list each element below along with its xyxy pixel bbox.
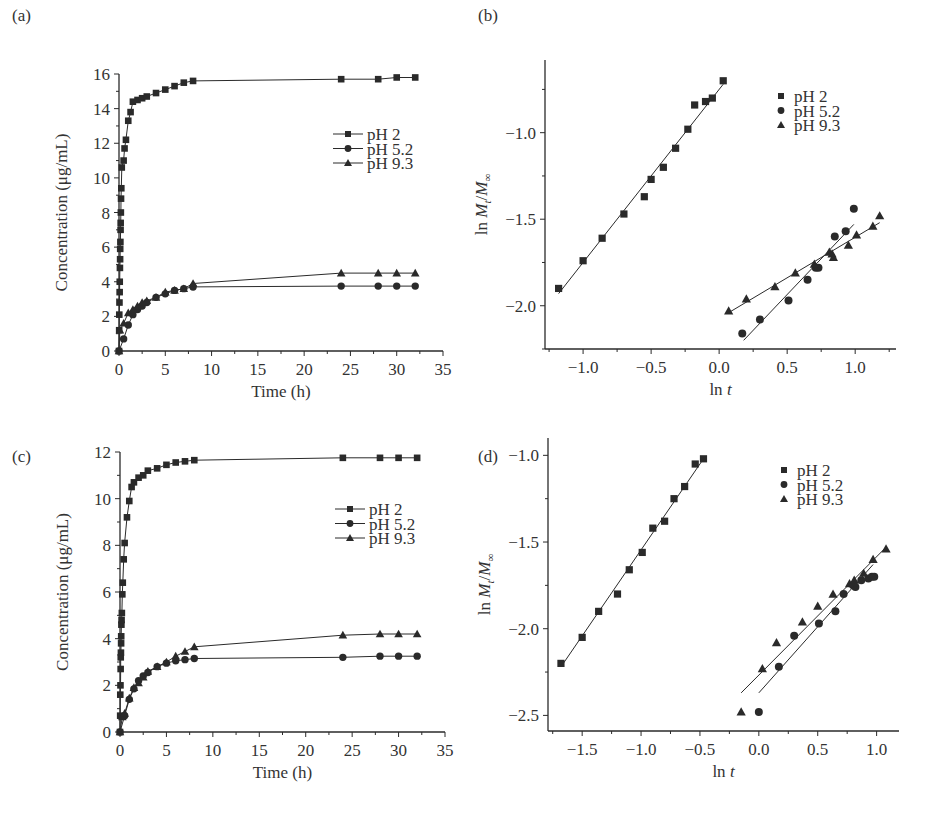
figure: 051015202530350246810121416Time (h)Conce… [0,0,941,834]
series-ph-5-2 [116,652,421,735]
square-marker [660,164,667,171]
legend-item: pH 9.3 [777,116,840,135]
triangle-marker [798,617,807,625]
square-marker [117,666,124,673]
y-tick-label: 10 [93,169,110,188]
square-marker [121,145,128,152]
y-tick-label: −1.5 [505,210,536,229]
legend: pH 2pH 5.2pH 9.3 [777,87,840,135]
circle-marker [850,205,858,213]
square-marker [414,455,421,462]
circle-marker [339,654,346,661]
x-tick-label: 20 [297,741,314,760]
x-tick-label: 15 [249,360,266,379]
square-marker [393,74,400,81]
y-tick-label: 8 [102,204,111,223]
square-marker [720,77,727,84]
circle-marker [781,481,788,488]
y-tick-label: 0 [103,723,112,742]
x-tick-label: 35 [437,741,454,760]
figure-canvas: 051015202530350246810121416Time (h)Conce… [0,0,941,834]
square-marker [412,74,419,81]
square-marker [171,83,178,90]
y-tick-label: 10 [94,490,111,509]
x-tick-label: −1.0 [568,358,599,377]
circle-marker [375,282,382,289]
square-marker [117,256,124,263]
square-marker [684,126,691,133]
series-line [119,273,415,351]
circle-marker [738,329,746,337]
series-ph-9-3 [116,630,422,736]
square-marker [117,691,124,698]
square-marker [579,634,586,641]
circle-marker [347,520,354,527]
y-tick-label: 12 [93,134,110,153]
x-tick-label: 5 [162,741,171,760]
x-axis-title: Time (h) [251,382,310,401]
square-marker [117,227,124,234]
square-marker [116,299,123,306]
square-marker [118,164,125,171]
circle-marker [790,632,798,640]
square-marker [123,136,130,143]
square-marker [117,239,124,246]
series-line [120,656,417,732]
square-marker [116,278,123,285]
x-tick-label: 0 [115,360,124,379]
x-tick-label: −0.5 [685,740,716,759]
panel-label: (d) [478,447,498,466]
x-tick-label: 35 [435,360,452,379]
triangle-marker [881,544,890,552]
panel-label: (c) [12,447,31,466]
x-axis-title: ln t [712,762,735,781]
square-marker [162,86,169,93]
y-tick-label: 6 [102,238,111,257]
square-marker [145,467,152,474]
x-tick-label: 0 [116,741,125,760]
x-tick-label: 10 [204,741,221,760]
legend-item: pH 9.3 [335,529,415,548]
square-marker [118,649,125,656]
square-marker [118,185,125,192]
circle-marker [755,708,763,716]
series-ph-5-2 [755,565,878,716]
x-tick-label: −1.0 [626,740,657,759]
y-tick-label: 16 [93,65,110,84]
x-tick-label: 5 [161,360,170,379]
circle-marker [191,655,198,662]
square-marker [614,590,621,597]
series-ph-9-3 [737,544,891,715]
triangle-marker [780,495,788,502]
triangle-marker [791,268,800,276]
square-marker [579,257,586,264]
y-tick-label: 14 [93,100,111,119]
y-tick-label: −2.0 [508,620,539,639]
y-tick-label: 4 [102,273,111,292]
square-marker [117,682,124,689]
legend-item: pH 9.3 [780,490,843,509]
triangle-marker [828,589,837,597]
x-tick-label: 15 [251,741,268,760]
circle-marker [395,652,402,659]
triangle-marker [337,269,346,277]
x-tick-label: 25 [344,741,361,760]
square-marker [119,579,126,586]
circle-marker [376,652,383,659]
y-tick-label: 4 [103,630,112,649]
circle-marker [345,145,352,152]
triangle-marker [411,269,420,277]
circle-marker [120,335,127,342]
series-ph-5-2 [738,205,858,341]
square-marker [345,131,351,137]
series-line [119,78,415,352]
legend-label: pH 9.3 [794,116,840,135]
square-marker [555,285,562,292]
y-axis-title: ln Mt/M∞ [472,174,493,236]
x-tick-label: 0.0 [709,358,730,377]
x-axis-title: ln t [709,380,732,399]
square-marker [649,525,656,532]
square-marker [117,246,124,253]
square-marker [124,514,131,521]
square-marker [118,617,125,624]
